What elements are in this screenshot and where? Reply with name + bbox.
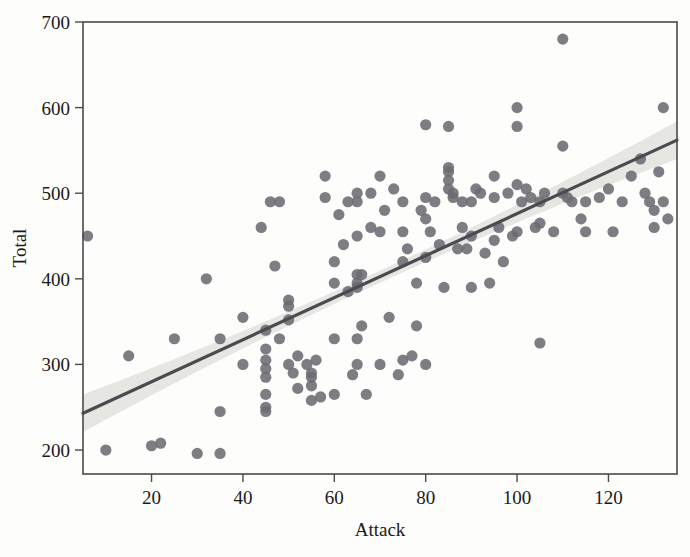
data-point bbox=[397, 196, 408, 207]
y-axis: 200300400500600700 bbox=[42, 12, 84, 461]
data-point bbox=[333, 209, 344, 220]
data-point bbox=[352, 196, 363, 207]
data-point bbox=[283, 301, 294, 312]
data-point bbox=[192, 448, 203, 459]
data-point bbox=[580, 226, 591, 237]
data-point bbox=[534, 218, 545, 229]
data-point bbox=[374, 226, 385, 237]
data-point bbox=[626, 170, 637, 181]
data-point bbox=[653, 166, 664, 177]
data-point bbox=[329, 389, 340, 400]
data-point bbox=[260, 343, 271, 354]
data-point bbox=[566, 196, 577, 207]
data-point bbox=[484, 278, 495, 289]
data-point bbox=[329, 333, 340, 344]
data-point bbox=[420, 213, 431, 224]
scatter-points bbox=[82, 34, 673, 460]
data-point bbox=[557, 34, 568, 45]
x-tick-label: 80 bbox=[416, 487, 435, 508]
data-point bbox=[384, 312, 395, 323]
data-point bbox=[466, 196, 477, 207]
data-point bbox=[420, 119, 431, 130]
data-point bbox=[274, 196, 285, 207]
chart-page: 20406080100120200300400500600700AttackTo… bbox=[0, 0, 690, 557]
data-point bbox=[388, 183, 399, 194]
y-axis-title: Total bbox=[9, 229, 30, 268]
data-point bbox=[425, 226, 436, 237]
data-point bbox=[260, 406, 271, 417]
data-point bbox=[288, 367, 299, 378]
data-point bbox=[365, 188, 376, 199]
x-axis-title: Attack bbox=[355, 519, 406, 540]
y-tick-label: 700 bbox=[42, 12, 71, 33]
data-point bbox=[617, 196, 628, 207]
data-point bbox=[658, 196, 669, 207]
data-point bbox=[329, 278, 340, 289]
data-point bbox=[123, 350, 134, 361]
data-point bbox=[260, 389, 271, 400]
data-point bbox=[475, 188, 486, 199]
y-tick-label: 500 bbox=[42, 183, 71, 204]
data-point bbox=[320, 170, 331, 181]
y-tick-label: 400 bbox=[42, 269, 71, 290]
data-point bbox=[443, 121, 454, 132]
data-point bbox=[658, 102, 669, 113]
data-point bbox=[393, 369, 404, 380]
data-point bbox=[649, 205, 660, 216]
data-point bbox=[352, 333, 363, 344]
data-point bbox=[402, 243, 413, 254]
data-point bbox=[420, 359, 431, 370]
data-point bbox=[548, 226, 559, 237]
data-point bbox=[237, 359, 248, 370]
data-point bbox=[347, 369, 358, 380]
data-point bbox=[411, 278, 422, 289]
data-point bbox=[155, 438, 166, 449]
data-point bbox=[260, 372, 271, 383]
data-point bbox=[397, 226, 408, 237]
data-point bbox=[429, 196, 440, 207]
data-point bbox=[511, 121, 522, 132]
data-point bbox=[100, 444, 111, 455]
data-point bbox=[498, 256, 509, 267]
data-point bbox=[489, 170, 500, 181]
data-point bbox=[603, 183, 614, 194]
data-point bbox=[201, 273, 212, 284]
data-point bbox=[214, 406, 225, 417]
data-point bbox=[292, 350, 303, 361]
data-point bbox=[539, 188, 550, 199]
data-point bbox=[662, 213, 673, 224]
data-point bbox=[214, 448, 225, 459]
data-point bbox=[607, 226, 618, 237]
data-point bbox=[649, 222, 660, 233]
data-point bbox=[315, 391, 326, 402]
data-point bbox=[489, 192, 500, 203]
x-tick-label: 40 bbox=[233, 487, 252, 508]
data-point bbox=[237, 312, 248, 323]
x-tick-label: 60 bbox=[325, 487, 344, 508]
data-point bbox=[320, 192, 331, 203]
x-tick-label: 120 bbox=[594, 487, 623, 508]
data-point bbox=[329, 256, 340, 267]
plot-frame bbox=[83, 22, 677, 474]
data-point bbox=[269, 260, 280, 271]
scatter-plot: 20406080100120200300400500600700AttackTo… bbox=[0, 0, 690, 557]
data-point bbox=[214, 333, 225, 344]
data-point bbox=[594, 192, 605, 203]
data-point bbox=[438, 282, 449, 293]
x-axis: 20406080100120 bbox=[142, 474, 623, 508]
data-point bbox=[361, 389, 372, 400]
data-point bbox=[310, 355, 321, 366]
data-point bbox=[489, 235, 500, 246]
data-point bbox=[256, 222, 267, 233]
data-point bbox=[466, 282, 477, 293]
y-tick-label: 200 bbox=[42, 440, 71, 461]
data-point bbox=[292, 383, 303, 394]
data-point bbox=[511, 226, 522, 237]
data-point bbox=[479, 248, 490, 259]
data-point bbox=[379, 205, 390, 216]
data-point bbox=[356, 320, 367, 331]
data-point bbox=[274, 333, 285, 344]
y-tick-label: 600 bbox=[42, 98, 71, 119]
y-tick-label: 300 bbox=[42, 354, 71, 375]
data-point bbox=[502, 188, 513, 199]
